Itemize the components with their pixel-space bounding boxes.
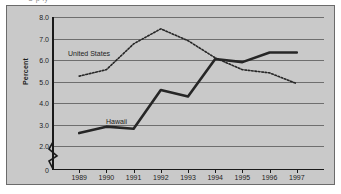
x-axis-tick-mark — [79, 169, 80, 173]
y-axis-tick-label: 6.0 — [39, 57, 49, 64]
y-axis-tick-label: 5.0 — [39, 78, 49, 85]
x-axis-tick-mark — [106, 169, 107, 173]
y-axis-line — [52, 17, 54, 170]
x-axis-tick-mark — [215, 169, 216, 173]
chart-figure: U p ly Percent 02.03.04.05.06.07.08.0 19… — [0, 0, 341, 194]
x-axis-tick-label: 1992 — [153, 174, 169, 181]
x-axis-tick-label: 1996 — [262, 174, 278, 181]
x-axis-tick-label: 1991 — [126, 174, 142, 181]
gridline — [52, 125, 324, 126]
x-axis-tick-label: 1994 — [207, 174, 223, 181]
series-line-united-states — [79, 29, 297, 84]
x-axis-tick-label: 1993 — [180, 174, 196, 181]
chart-panel: Percent 02.03.04.05.06.07.08.0 198919901… — [6, 5, 335, 185]
y-axis-tick-labels: 02.03.04.05.06.07.08.0 — [21, 6, 49, 186]
axis-break-icon — [7, 6, 336, 186]
gridline — [52, 103, 324, 104]
y-axis-tick-label: 8.0 — [39, 14, 49, 21]
x-axis-tick-mark — [161, 169, 162, 173]
gridline — [52, 82, 324, 83]
x-axis-tick-mark — [270, 169, 271, 173]
x-axis-tick-mark — [134, 169, 135, 173]
x-axis-tick-label: 1997 — [289, 174, 305, 181]
series-label-united-states: United States — [68, 50, 110, 57]
y-axis-tick-label: 0 — [45, 167, 49, 174]
y-axis-tick-label: 4.0 — [39, 100, 49, 107]
clipped-header-text-value: U p ly — [28, 0, 48, 2]
y-axis-tick-label: 3.0 — [39, 121, 49, 128]
x-axis-tick-mark — [242, 169, 243, 173]
x-axis-tick-mark — [188, 169, 189, 173]
y-axis-tick-label: 2.0 — [39, 143, 49, 150]
x-axis-tick-label: 1989 — [71, 174, 87, 181]
series-label-hawaii: Hawaii — [106, 118, 127, 125]
series-layer — [7, 6, 336, 186]
x-axis-tick-mark — [297, 169, 298, 173]
x-axis-tick-label: 1990 — [99, 174, 115, 181]
y-axis-tick-label: 7.0 — [39, 35, 49, 42]
gridline — [52, 60, 324, 61]
gridline — [52, 39, 324, 40]
gridline — [52, 17, 324, 18]
gridline — [52, 146, 324, 147]
x-axis-tick-label: 1995 — [235, 174, 251, 181]
